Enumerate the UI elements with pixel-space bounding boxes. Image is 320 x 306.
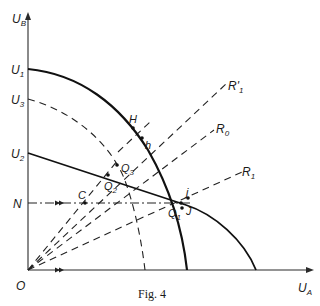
- u3-label: U3: [11, 93, 25, 109]
- point-q2: [106, 173, 110, 177]
- r0-label: R0: [216, 122, 230, 138]
- ray-r1: [28, 172, 242, 270]
- rays: [28, 84, 242, 270]
- u2-label: U2: [11, 147, 25, 163]
- x-axis-label: UA: [298, 281, 312, 297]
- origin-label: O: [16, 279, 25, 293]
- point-c: [83, 201, 87, 205]
- ray-r1-prime: [28, 84, 226, 270]
- label-c: C: [78, 189, 86, 201]
- point-q1: [180, 206, 184, 210]
- point-j-lower: [179, 201, 183, 205]
- u2-frontier-curve: [28, 153, 256, 270]
- r1-label: R1: [242, 165, 255, 181]
- label-j-upper: J: [185, 205, 192, 217]
- figure-caption: Fig. 4: [138, 287, 166, 301]
- point-h-upper: [131, 126, 135, 130]
- n-line-double-arrow-icon: [55, 201, 64, 206]
- ray-through-c: [28, 160, 118, 270]
- label-q1: Q1: [168, 207, 181, 222]
- point-q3: [115, 163, 119, 167]
- x-axis-arrow-icon: [306, 267, 314, 273]
- label-h-upper: H: [129, 113, 137, 125]
- r1-prime-label: R'1: [228, 79, 243, 95]
- u1-label: U1: [11, 63, 24, 79]
- x-axis-double-arrow-icon: [55, 268, 64, 273]
- u3-frontier-curve: [28, 99, 145, 270]
- utility-possibility-diagram: UB UA O U1 U3 U2 N R'1 R0 R1 H: [0, 0, 320, 306]
- y-axis-label: UB: [12, 12, 27, 28]
- point-h-lower: [140, 136, 144, 140]
- n-label: N: [13, 197, 22, 211]
- label-j-lower: j: [184, 186, 189, 198]
- axes: [25, 12, 314, 273]
- u1-frontier-curve: [28, 69, 187, 270]
- ray-r0: [28, 130, 214, 270]
- label-h-lower: h: [145, 139, 151, 151]
